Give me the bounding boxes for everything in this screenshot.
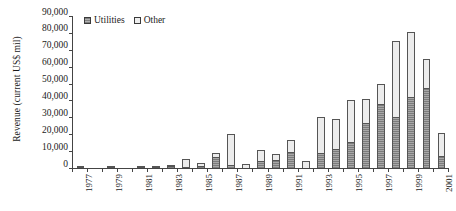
bar-segment-other	[407, 32, 415, 97]
bar-segment-other	[332, 119, 340, 149]
bar-series-container	[73, 16, 449, 168]
bar-segment-utilities	[317, 153, 325, 168]
x-axis-tick-label: 2001	[444, 174, 454, 192]
y-axis-tick-label: 70,000	[18, 41, 68, 51]
x-axis-tick	[72, 168, 73, 172]
x-axis-tick-label: 1979	[114, 174, 124, 192]
x-axis-tick	[298, 168, 299, 172]
y-axis-tick-label: 90,000	[18, 8, 68, 18]
bar-1984	[182, 159, 190, 168]
x-axis-tick	[313, 168, 314, 172]
bar-segment-other	[438, 133, 446, 156]
bar-segment-utilities	[362, 123, 370, 168]
x-axis-tick	[358, 168, 359, 172]
bar-1992	[302, 161, 310, 168]
x-axis-tick	[403, 168, 404, 172]
x-axis-tick-label: 1977	[84, 174, 94, 192]
x-axis-tick-label: 1981	[144, 174, 154, 192]
x-axis-tick	[343, 168, 344, 172]
x-axis-tick	[237, 168, 238, 172]
bar-segment-utilities	[212, 157, 220, 168]
x-axis-tick	[162, 168, 163, 172]
x-axis-tick	[117, 168, 118, 172]
bar-1996	[362, 99, 370, 168]
x-axis-tick	[328, 168, 329, 172]
x-axis-tick-label: 1999	[414, 174, 424, 192]
x-axis-tick	[177, 168, 178, 172]
x-axis-tick	[252, 168, 253, 172]
y-axis-tick-label: 30,000	[18, 109, 68, 119]
bar-2000	[423, 59, 431, 168]
bar-segment-utilities	[347, 142, 355, 168]
x-axis-tick-label: 1989	[264, 174, 274, 192]
x-axis-tick	[87, 168, 88, 172]
y-axis-tick-label: 80,000	[18, 24, 68, 34]
bar-segment-other	[423, 59, 431, 88]
y-axis-tick-label: 20,000	[18, 126, 68, 136]
bar-segment-other	[257, 150, 265, 160]
bar-segment-utilities	[392, 117, 400, 169]
bar-1991	[287, 140, 295, 168]
x-axis-tick	[222, 168, 223, 172]
x-axis-ticks	[72, 168, 449, 173]
bar-segment-other	[392, 41, 400, 116]
bar-1986	[212, 153, 220, 168]
x-axis-tick	[192, 168, 193, 172]
x-axis-tick	[388, 168, 389, 172]
y-axis-tick-label: 40,000	[18, 92, 68, 102]
bar-segment-other	[377, 84, 385, 104]
x-axis-tick-labels: 1977197919811983198519871989199119931995…	[72, 174, 449, 210]
y-axis-tick-labels: 90,00080,00070,00060,00050,00040,00030,0…	[18, 12, 68, 170]
x-axis-tick	[132, 168, 133, 172]
bar-1999	[407, 32, 415, 168]
bar-segment-other	[227, 134, 235, 165]
bar-segment-utilities	[423, 88, 431, 168]
plot-area	[72, 16, 449, 169]
y-axis-tick-label: 60,000	[18, 58, 68, 68]
x-axis-tick	[418, 168, 419, 172]
x-axis-tick-label: 1983	[174, 174, 184, 192]
bar-2001	[438, 133, 446, 168]
x-axis-tick-label: 1995	[354, 174, 364, 192]
bar-segment-utilities	[257, 161, 265, 168]
bar-segment-utilities	[407, 97, 415, 168]
bar-1990	[272, 154, 280, 168]
bar-1995	[347, 100, 355, 168]
bar-1993	[317, 117, 325, 168]
stacked-bar-chart: Revenue (current US$ mil) 90,00080,00070…	[0, 0, 456, 211]
x-axis-tick-label: 1991	[294, 174, 304, 192]
bar-1998	[392, 41, 400, 168]
bar-segment-utilities	[272, 160, 280, 168]
bar-segment-utilities	[377, 104, 385, 168]
bar-1989	[257, 150, 265, 168]
bar-1987	[227, 134, 235, 168]
bar-1997	[377, 84, 385, 168]
bar-segment-utilities	[287, 152, 295, 168]
y-axis-tick-label: 10,000	[18, 143, 68, 153]
bar-segment-other	[287, 140, 295, 152]
x-axis-tick	[207, 168, 208, 172]
x-axis-tick	[283, 168, 284, 172]
x-axis-tick	[268, 168, 269, 172]
y-axis-tick-label: 0	[18, 160, 68, 170]
x-axis-tick	[448, 168, 449, 172]
bar-segment-utilities	[438, 156, 446, 168]
x-axis-tick-label: 1993	[324, 174, 334, 192]
bar-segment-other	[302, 161, 310, 168]
x-axis-tick-label: 1987	[234, 174, 244, 192]
bar-segment-utilities	[332, 149, 340, 168]
x-axis-tick	[373, 168, 374, 172]
x-axis-tick	[102, 168, 103, 172]
bar-segment-other	[347, 100, 355, 141]
x-axis-tick	[433, 168, 434, 172]
bar-1994	[332, 119, 340, 168]
bar-segment-other	[317, 117, 325, 153]
x-axis-tick-label: 1997	[384, 174, 394, 192]
bar-segment-other	[182, 159, 190, 167]
y-axis-tick-label: 50,000	[18, 75, 68, 85]
x-axis-tick	[147, 168, 148, 172]
x-axis-tick-label: 1985	[204, 174, 214, 192]
bar-segment-other	[362, 99, 370, 123]
